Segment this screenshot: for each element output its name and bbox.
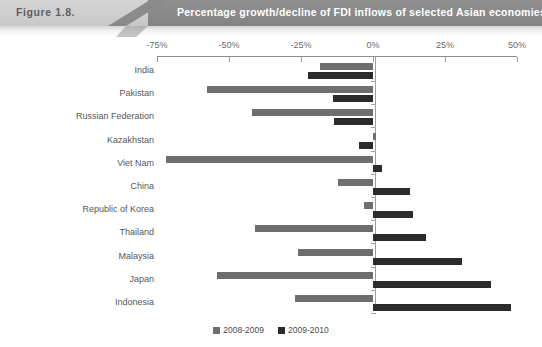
- y-axis-minor-tick: [371, 174, 376, 175]
- bar-2009-2010: [373, 165, 382, 172]
- category-label: Malaysia: [118, 251, 154, 261]
- bar-row: India: [157, 61, 517, 83]
- bar-row: Thailand: [157, 223, 517, 245]
- category-label: Russian Federation: [76, 111, 154, 121]
- bar-2009-2010: [359, 142, 373, 149]
- x-axis-line: [157, 56, 517, 57]
- bar-2009-2010: [373, 188, 410, 195]
- x-axis-tick-label: 0%: [366, 40, 379, 50]
- y-axis-minor-tick: [371, 220, 376, 221]
- legend-label: 2009-2010: [288, 325, 329, 335]
- y-axis-minor-tick: [371, 243, 376, 244]
- plot-area: -75%-50%-25%0%25%50% IndiaPakistanRussia…: [157, 56, 517, 310]
- bar-row: Republic of Korea: [157, 200, 517, 222]
- bar-2008-2009: [298, 249, 373, 256]
- category-label: Japan: [129, 274, 154, 284]
- figure-number: Figure 1.8.: [16, 6, 75, 18]
- y-axis-minor-tick: [371, 290, 376, 291]
- chart-legend: 2008-20092009-2010: [0, 325, 542, 335]
- bar-2008-2009: [295, 295, 373, 302]
- category-label: Republic of Korea: [82, 204, 154, 214]
- x-axis-tick-label: 50%: [508, 40, 526, 50]
- legend-swatch-icon: [278, 327, 285, 334]
- bar-row: Pakistan: [157, 84, 517, 106]
- bar-row: Malaysia: [157, 247, 517, 269]
- bar-2009-2010: [373, 211, 413, 218]
- y-axis-minor-tick: [371, 81, 376, 82]
- y-axis-minor-tick: [371, 313, 376, 314]
- bar-2008-2009: [166, 156, 373, 163]
- figure-header: Figure 1.8. Percentage growth/decline of…: [0, 0, 542, 26]
- bar-2009-2010: [373, 234, 426, 241]
- bar-row: Kazakhstan: [157, 131, 517, 153]
- legend-swatch-icon: [213, 327, 220, 334]
- category-label: India: [134, 65, 154, 75]
- bar-2009-2010: [373, 304, 511, 311]
- x-axis-tick-label: -75%: [146, 40, 167, 50]
- y-axis-minor-tick: [371, 127, 376, 128]
- x-axis-tick: [517, 57, 518, 62]
- bar-2009-2010: [373, 281, 491, 288]
- category-label: Thailand: [119, 227, 154, 237]
- y-axis-minor-tick: [371, 151, 376, 152]
- bar-2008-2009: [364, 202, 373, 209]
- bar-2008-2009: [320, 63, 373, 70]
- bar-2009-2010: [334, 118, 373, 125]
- chart-container: -75%-50%-25%0%25%50% IndiaPakistanRussia…: [0, 37, 542, 347]
- figure-title: Percentage growth/decline of FDI inflows…: [177, 6, 542, 18]
- category-label: Pakistan: [119, 88, 154, 98]
- bar-2008-2009: [252, 109, 373, 116]
- bar-row: China: [157, 177, 517, 199]
- x-axis-tick-label: -25%: [290, 40, 311, 50]
- bar-row: Viet Nam: [157, 154, 517, 176]
- bar-2008-2009: [338, 179, 373, 186]
- bar-row: Japan: [157, 270, 517, 292]
- category-label: China: [130, 181, 154, 191]
- y-axis-minor-tick: [371, 197, 376, 198]
- y-axis-minor-tick: [371, 104, 376, 105]
- bar-2009-2010: [373, 258, 462, 265]
- bar-2009-2010: [333, 95, 373, 102]
- header-drop-shadow: [0, 26, 542, 37]
- legend-item: 2009-2010: [278, 325, 329, 335]
- bar-row: Indonesia: [157, 293, 517, 315]
- bar-2008-2009: [373, 133, 376, 140]
- category-label: Viet Nam: [117, 158, 154, 168]
- category-label: Kazakhstan: [107, 135, 154, 145]
- y-axis-minor-tick: [371, 267, 376, 268]
- legend-label: 2008-2009: [223, 325, 264, 335]
- legend-item: 2008-2009: [213, 325, 264, 335]
- x-axis-tick-label: -50%: [218, 40, 239, 50]
- bar-row: Russian Federation: [157, 107, 517, 129]
- bar-2008-2009: [217, 272, 373, 279]
- bar-2008-2009: [207, 86, 373, 93]
- x-axis-tick-label: 25%: [436, 40, 454, 50]
- bar-2008-2009: [255, 225, 373, 232]
- bar-2009-2010: [308, 72, 373, 79]
- category-label: Indonesia: [115, 297, 154, 307]
